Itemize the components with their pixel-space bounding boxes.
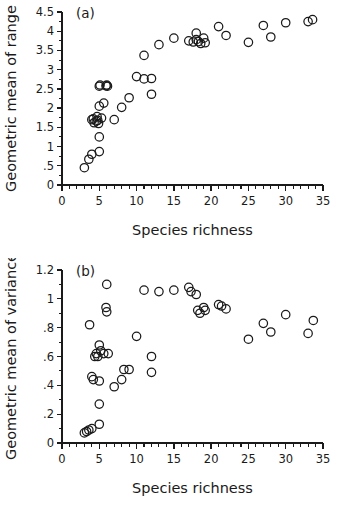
data-point: [170, 286, 178, 294]
data-point: [125, 365, 133, 373]
data-point: [309, 316, 317, 324]
data-point: [282, 310, 290, 318]
y-axis-title: Geometric mean of variance: [3, 258, 19, 460]
data-point: [125, 94, 133, 102]
data-point: [140, 286, 148, 294]
x-tick-label: 30: [278, 452, 293, 466]
data-point: [267, 328, 275, 336]
data-point: [117, 103, 125, 111]
data-point: [282, 19, 290, 27]
data-point: [244, 38, 252, 46]
x-tick-label: 15: [167, 452, 182, 466]
x-tick-label: 30: [278, 194, 293, 208]
y-tick-label: .2: [43, 407, 54, 421]
panel-label: (b): [76, 263, 95, 279]
x-axis-title: Species richness: [132, 222, 253, 238]
data-point: [244, 335, 252, 343]
scatter-series: [80, 280, 317, 437]
x-tick-label: 10: [129, 452, 144, 466]
panel-b-plot-area: 0.2.4.6.811.205101520253035(b)Species ri…: [0, 258, 338, 520]
x-tick-label: 20: [204, 194, 219, 208]
data-point: [259, 319, 267, 327]
data-point: [110, 383, 118, 391]
data-point: [85, 321, 93, 329]
y-tick-label: 2.5: [36, 82, 54, 96]
data-point: [95, 377, 103, 385]
x-axis-title: Species richness: [132, 480, 253, 496]
data-point: [110, 115, 118, 123]
data-point: [103, 280, 111, 288]
data-point: [95, 400, 103, 408]
data-point: [80, 164, 88, 172]
x-tick-label: 5: [96, 452, 103, 466]
y-tick-label: 1: [47, 292, 54, 306]
x-tick-label: 20: [204, 452, 219, 466]
x-tick-label: 35: [316, 194, 331, 208]
x-tick-label: 5: [96, 194, 103, 208]
y-tick-label: 3.5: [36, 43, 54, 57]
data-point: [267, 33, 275, 41]
x-tick-label: 35: [316, 452, 331, 466]
data-point: [140, 51, 148, 59]
y-tick-label: 1.2: [36, 263, 54, 277]
data-point: [147, 352, 155, 360]
scatter-series: [80, 15, 317, 171]
y-tick-label: 4.5: [36, 5, 54, 19]
panel-label: (a): [76, 5, 95, 21]
y-tick-label: 0: [47, 436, 54, 450]
x-tick-label: 15: [167, 194, 182, 208]
panel-a-geometric-mean-of-range: 0.511.522.533.544.505101520253035(a)Spec…: [0, 0, 338, 262]
data-point: [147, 368, 155, 376]
y-tick-label: 4: [47, 24, 54, 38]
y-tick-label: .4: [43, 378, 54, 392]
data-point: [155, 40, 163, 48]
y-tick-label: 1: [47, 140, 54, 154]
data-point: [95, 133, 103, 141]
x-tick-label: 0: [58, 194, 65, 208]
y-tick-label: 0: [47, 178, 54, 192]
y-tick-label: 1.5: [36, 120, 54, 134]
data-point: [155, 287, 163, 295]
panel-a-plot-area: 0.511.522.533.544.505101520253035(a)Spec…: [0, 0, 338, 262]
data-point: [147, 90, 155, 98]
data-point: [214, 22, 222, 30]
y-tick-label: .8: [43, 321, 54, 335]
y-tick-label: 3: [47, 63, 54, 77]
data-point: [95, 420, 103, 428]
x-tick-label: 25: [241, 194, 256, 208]
y-tick-label: .5: [43, 159, 54, 173]
two-panel-scatter-figure: 0.511.522.533.544.505101520253035(a)Spec…: [0, 0, 338, 520]
y-tick-label: 2: [47, 101, 54, 115]
y-tick-label: .6: [43, 350, 54, 364]
data-point: [222, 31, 230, 39]
data-point: [132, 332, 140, 340]
data-point: [259, 21, 267, 29]
x-tick-label: 0: [58, 452, 65, 466]
data-point: [95, 341, 103, 349]
x-tick-label: 10: [129, 194, 144, 208]
data-point: [304, 329, 312, 337]
data-point: [95, 147, 103, 155]
x-tick-label: 25: [241, 452, 256, 466]
data-point: [170, 34, 178, 42]
data-point: [117, 375, 125, 383]
y-axis-title: Geometric mean of range: [3, 5, 19, 192]
data-point: [89, 375, 97, 383]
panel-b-geometric-mean-of-variance: 0.2.4.6.811.205101520253035(b)Species ri…: [0, 258, 338, 520]
